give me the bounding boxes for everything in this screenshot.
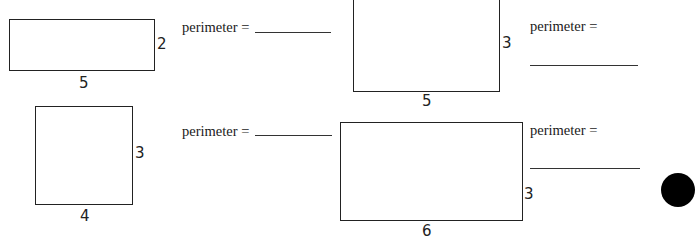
perimeter-answer-blank-1[interactable] xyxy=(255,32,331,33)
perimeter-answer-blank-4[interactable] xyxy=(530,168,640,169)
perimeter-label-3: perimeter = xyxy=(182,123,249,139)
rectangle-1 xyxy=(9,19,155,71)
perimeter-label-4: perimeter = xyxy=(530,122,597,138)
rectangle-1-height-label: 2 xyxy=(157,37,167,52)
rectangle-4-height-label: 3 xyxy=(524,187,534,202)
rectangle-3-height-label: 3 xyxy=(135,146,145,161)
rectangle-2-height-label: 3 xyxy=(502,36,512,51)
hole-punch-icon xyxy=(661,173,695,207)
rectangle-1-width-label: 5 xyxy=(79,76,89,91)
rectangle-4-width-label: 6 xyxy=(422,224,432,239)
perimeter-answer-blank-2[interactable] xyxy=(530,65,638,66)
rectangle-3-width-label: 4 xyxy=(80,209,90,224)
rectangle-2 xyxy=(353,0,500,92)
rectangle-3 xyxy=(35,106,133,205)
rectangle-2-width-label: 5 xyxy=(422,94,432,109)
rectangle-4 xyxy=(340,122,523,221)
perimeter-answer-blank-3[interactable] xyxy=(255,135,332,136)
perimeter-label-1: perimeter = xyxy=(182,19,249,35)
perimeter-label-2: perimeter = xyxy=(530,18,597,34)
